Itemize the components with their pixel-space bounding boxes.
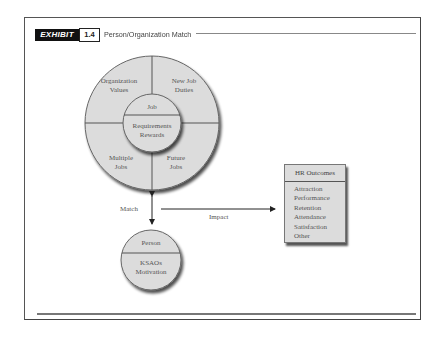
quadrant-future-jobs-line2: Jobs xyxy=(170,163,183,171)
match-label: Match xyxy=(120,205,138,213)
hr-outcome-item: Performance xyxy=(294,194,345,203)
hr-outcome-item: Retention xyxy=(294,204,345,213)
hr-outcomes-box: HR Outcomes Attraction Performance Reten… xyxy=(284,164,346,243)
bottom-rule xyxy=(37,313,416,315)
hr-outcome-item: Attraction xyxy=(294,185,345,194)
impact-arrow: Impact xyxy=(161,209,275,221)
hr-outcome-item: Satisfaction xyxy=(294,223,345,232)
hr-outcomes-title: HR Outcomes xyxy=(285,165,345,182)
quadrant-new-job-line1: New Job xyxy=(172,77,197,85)
match-arrow: Match xyxy=(120,196,152,224)
quadrant-org-values-line1: Organization xyxy=(101,77,138,85)
quadrant-multiple-jobs-line2: Jobs xyxy=(115,163,128,171)
quadrant-multiple-jobs-line1: Multiple xyxy=(109,154,133,162)
quadrant-org-values-line2: Values xyxy=(110,86,129,94)
hr-outcome-item: Attendance xyxy=(294,213,345,222)
ksaos-label: KSAOs xyxy=(140,259,162,267)
hr-outcomes-list: Attraction Performance Retention Attenda… xyxy=(285,182,345,241)
quadrant-new-job-line2: Duties xyxy=(175,86,194,94)
inner-rewards-label: Rewards xyxy=(140,131,165,139)
impact-label: Impact xyxy=(209,213,228,221)
organization-circle: Organization Values New Job Duties Multi… xyxy=(85,56,219,190)
motivation-label: Motivation xyxy=(135,268,167,276)
quadrant-future-jobs-line1: Future xyxy=(167,154,185,162)
person-label: Person xyxy=(141,239,161,247)
inner-requirements-label: Requirements xyxy=(133,122,172,130)
hr-outcome-item: Other xyxy=(294,232,345,241)
person-circle: Person KSAOs Motivation xyxy=(121,230,181,290)
inner-job-label: Job xyxy=(147,103,157,111)
diagram-canvas: Organization Values New Job Duties Multi… xyxy=(0,0,441,341)
